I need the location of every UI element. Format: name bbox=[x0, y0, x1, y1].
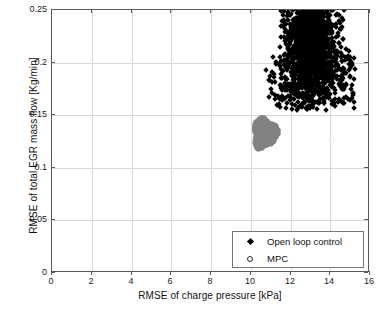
legend-entry-mpc: MPC bbox=[233, 250, 363, 267]
x-tick-mark bbox=[131, 271, 132, 275]
y-tick-mark-right bbox=[364, 114, 368, 115]
data-point-open-loop-control bbox=[277, 44, 283, 50]
x-tick-mark bbox=[369, 271, 370, 275]
gridline-horizontal bbox=[52, 168, 368, 169]
data-point-open-loop-control bbox=[263, 67, 269, 73]
data-point-mpc bbox=[271, 131, 276, 136]
x-tick-label: 6 bbox=[167, 276, 172, 287]
faint-outlier-point bbox=[329, 137, 335, 143]
data-point-mpc bbox=[270, 137, 275, 142]
data-point-open-loop-control bbox=[341, 9, 347, 13]
data-point-open-loop-control bbox=[351, 105, 357, 111]
x-tick-label: 4 bbox=[128, 276, 133, 287]
x-tick-mark-top bbox=[210, 9, 211, 13]
gridline-horizontal bbox=[52, 115, 368, 116]
y-tick-mark bbox=[51, 272, 55, 273]
legend-label-mpc: MPC bbox=[267, 253, 288, 264]
data-point-open-loop-control bbox=[351, 76, 357, 82]
y-tick-mark bbox=[51, 9, 55, 10]
data-point-open-loop-control bbox=[314, 106, 320, 112]
y-tick-label: 0 bbox=[42, 267, 47, 278]
x-tick-mark-top bbox=[250, 9, 251, 13]
x-tick-mark-top bbox=[91, 9, 92, 13]
y-tick-mark bbox=[51, 219, 55, 220]
y-tick-mark-right bbox=[364, 62, 368, 63]
x-tick-label: 8 bbox=[207, 276, 212, 287]
gridline-vertical bbox=[132, 10, 133, 271]
legend-label-open-loop-control: Open loop control bbox=[267, 236, 342, 247]
data-point-open-loop-control bbox=[323, 108, 329, 114]
y-axis-label: RMSE of total EGR mass flow [Kg/min] bbox=[28, 26, 39, 266]
y-tick-mark bbox=[51, 114, 55, 115]
data-point-open-loop-control bbox=[343, 81, 349, 87]
x-tick-mark bbox=[329, 271, 330, 275]
y-tick-mark-right bbox=[364, 272, 368, 273]
x-tick-mark-top bbox=[329, 9, 330, 13]
data-point-mpc bbox=[256, 119, 261, 124]
x-tick-label: 10 bbox=[245, 276, 255, 287]
data-point-mpc bbox=[265, 126, 270, 131]
data-point-mpc bbox=[271, 123, 276, 128]
x-tick-mark bbox=[210, 271, 211, 275]
x-tick-label: 2 bbox=[88, 276, 93, 287]
data-point-open-loop-control bbox=[283, 105, 289, 111]
gridline-vertical bbox=[211, 10, 212, 271]
gridline-vertical bbox=[171, 10, 172, 271]
chart-legend: Open loop control MPC bbox=[232, 231, 364, 268]
data-point-mpc bbox=[259, 131, 264, 136]
scatter-chart-figure: 0246810121416 00.050.10.150.20.25 RMSE o… bbox=[0, 0, 382, 312]
x-tick-mark-top bbox=[369, 9, 370, 13]
data-point-open-loop-control bbox=[346, 48, 352, 54]
x-tick-mark bbox=[91, 271, 92, 275]
x-tick-mark bbox=[290, 271, 291, 275]
x-tick-mark-top bbox=[131, 9, 132, 13]
data-point-mpc bbox=[254, 137, 259, 142]
x-tick-label: 0 bbox=[48, 276, 53, 287]
x-tick-mark-top bbox=[170, 9, 171, 13]
gridline-vertical bbox=[92, 10, 93, 271]
y-tick-label: 0.25 bbox=[29, 4, 47, 15]
legend-diamond-icon bbox=[233, 239, 267, 244]
data-point-mpc bbox=[257, 124, 262, 129]
x-tick-label: 12 bbox=[285, 276, 295, 287]
y-tick-mark bbox=[51, 167, 55, 168]
y-tick-mark-right bbox=[364, 9, 368, 10]
y-tick-mark-right bbox=[364, 219, 368, 220]
y-tick-mark bbox=[51, 62, 55, 63]
data-point-mpc bbox=[262, 142, 267, 147]
x-tick-mark bbox=[250, 271, 251, 275]
x-tick-label: 14 bbox=[324, 276, 334, 287]
gridline-horizontal bbox=[52, 220, 368, 221]
x-tick-mark bbox=[170, 271, 171, 275]
data-point-open-loop-control bbox=[340, 36, 346, 42]
x-tick-label: 16 bbox=[364, 276, 374, 287]
x-tick-mark-top bbox=[290, 9, 291, 13]
x-axis-label: RMSE of charge pressure [kPa] bbox=[51, 290, 369, 301]
y-tick-mark-right bbox=[364, 167, 368, 168]
data-point-mpc bbox=[264, 119, 269, 124]
legend-entry-open-loop-control: Open loop control bbox=[233, 233, 363, 250]
data-point-open-loop-control bbox=[351, 55, 357, 61]
legend-circle-icon bbox=[233, 256, 267, 262]
